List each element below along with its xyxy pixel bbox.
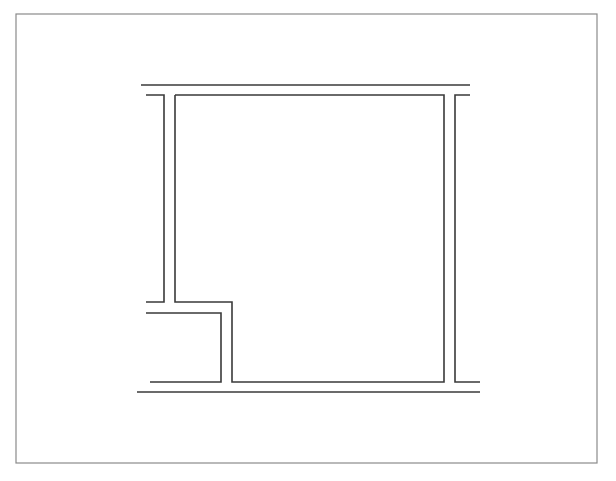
- room-inner-outline: [175, 95, 444, 382]
- right-outer-wall: [455, 95, 480, 382]
- walls-group: [137, 85, 480, 392]
- notch-outer: [146, 313, 221, 382]
- floor-plan-diagram: [0, 0, 616, 481]
- left-outer-wall: [146, 95, 164, 302]
- diagram-frame: [16, 14, 597, 463]
